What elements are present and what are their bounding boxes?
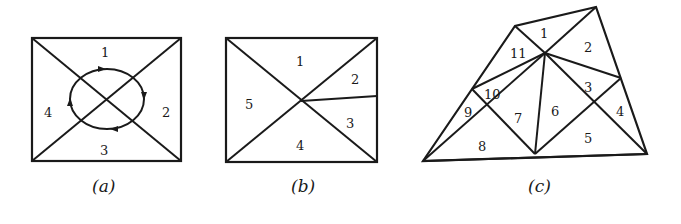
arrow-left-icon [110, 126, 118, 132]
region-label-c1: 1 [540, 26, 548, 41]
panel-c-caption: (c) [528, 176, 551, 196]
edge-C-I [472, 53, 545, 89]
panel-b-split-segment [301, 96, 377, 101]
region-label-a1: 1 [101, 45, 109, 60]
region-label-b2: 2 [351, 72, 359, 87]
region-label-c5: 5 [584, 131, 592, 146]
region-label-a4: 4 [44, 105, 52, 120]
figure: 1 2 3 4 (a) 1 2 3 4 5 (b) 1 2 3 4 [0, 0, 681, 224]
region-label-c2: 2 [584, 40, 592, 55]
region-label-c11: 11 [510, 46, 527, 61]
panel-c: 1 2 3 4 5 6 7 8 9 10 11 (c) [423, 7, 647, 196]
region-label-c4: 4 [616, 104, 624, 119]
arrow-up-icon [67, 98, 73, 106]
region-label-c3: 3 [584, 80, 592, 95]
edge-C-F [545, 53, 647, 154]
region-label-a3: 3 [100, 143, 108, 158]
region-label-c6: 6 [551, 104, 559, 119]
region-label-b5: 5 [245, 97, 253, 112]
edge-H-F [423, 154, 647, 161]
panel-a-caption: (a) [92, 176, 115, 196]
panel-b: 1 2 3 4 5 (b) [226, 38, 377, 196]
panel-a: 1 2 3 4 (a) [32, 38, 181, 196]
arrow-down-icon [141, 92, 147, 100]
region-label-c8: 8 [478, 139, 486, 154]
region-label-c7: 7 [514, 111, 522, 126]
arrow-right-icon [98, 66, 106, 72]
region-label-b1: 1 [296, 54, 304, 69]
edge-C-G [535, 53, 545, 154]
region-label-a2: 2 [162, 105, 170, 120]
region-label-c9: 9 [464, 105, 472, 120]
panel-b-caption: (b) [291, 176, 315, 196]
region-label-c10: 10 [484, 87, 501, 102]
region-label-b4: 4 [296, 138, 304, 153]
region-label-b3: 3 [346, 116, 354, 131]
